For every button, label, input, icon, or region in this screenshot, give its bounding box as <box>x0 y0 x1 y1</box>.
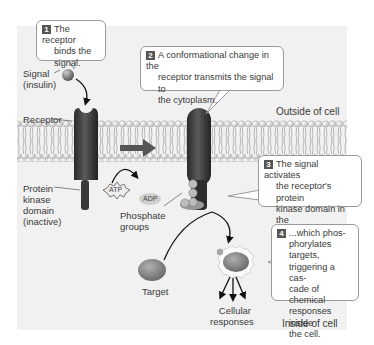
responses-label-line: Cellular <box>216 305 254 316</box>
step-4-text-line: phorylates targets, <box>277 239 353 261</box>
outside-cell-label: Outside of cell <box>276 106 339 117</box>
step-4-badge: 4 <box>277 229 286 238</box>
step-2-badge: 2 <box>146 51 155 60</box>
cellular-responses-label: Cellular responses <box>216 305 254 327</box>
response-arrows <box>221 277 244 298</box>
step-4-callout: 4...which phos- phorylates targets, trig… <box>271 224 359 301</box>
step-3-callout: 3The signal activates the receptor's pro… <box>258 155 362 207</box>
step-4-text-line: the cell. <box>277 329 353 340</box>
receptor-inactive <box>74 108 98 210</box>
step-2-text-line: the cytoplasm. <box>146 95 278 106</box>
step-1-callout: 1The receptor binds the signal. <box>36 20 106 61</box>
binding-arrow <box>76 79 87 102</box>
atp-adp-arrow <box>112 169 136 183</box>
signal-label-line: (insulin) <box>23 79 56 90</box>
step-2-text-line: receptor transmits the signal to <box>146 72 278 94</box>
step-3-badge: 3 <box>264 160 273 169</box>
responses-label-line: responses <box>210 316 254 327</box>
step-1-text-line: binds the <box>42 46 100 57</box>
insulin-signal-icon <box>62 69 74 81</box>
receptor-label: Receptor <box>23 114 62 125</box>
phosphate-label-line: groups <box>120 221 165 232</box>
atp-label: ATP <box>109 186 122 193</box>
step-2-callout: 2A conformational change in the receptor… <box>140 46 284 91</box>
step-4-text-line: ...which phos- <box>289 228 346 238</box>
step-4-text-line: triggering a cas- <box>277 262 353 284</box>
kinase-label-line: domain <box>23 205 62 216</box>
kinase-domain-label: Protein kinase domain (inactive) <box>23 183 62 227</box>
inside-cell-label: Inside of cell <box>282 318 338 329</box>
kinase-label-line: (inactive) <box>23 216 62 227</box>
phosphate-groups-label: Phosphate groups <box>120 210 165 232</box>
signal-label: Signal (insulin) <box>23 68 56 90</box>
kinase-label-line: Protein <box>23 183 62 194</box>
target-protein-icon <box>138 259 166 281</box>
kinase-label-line: kinase <box>23 194 62 205</box>
phosphate-label-line: Phosphate <box>120 210 165 221</box>
activated-target-icon <box>217 246 254 278</box>
step-3-text-line: kinase domain in the <box>264 204 356 226</box>
step-3-text-line: the receptor's protein <box>264 181 356 203</box>
signal-label-line: Signal <box>23 68 56 79</box>
target-label: Target <box>142 286 168 297</box>
step-4-text-line: cade of chemical <box>277 284 353 306</box>
step-2-text-line: A conformational change in the <box>146 50 269 71</box>
adp-label: ADP <box>143 195 157 202</box>
step-1-badge: 1 <box>42 25 51 34</box>
